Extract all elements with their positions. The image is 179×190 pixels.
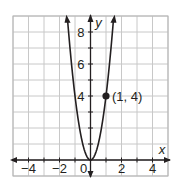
x-tick-label: 4 xyxy=(149,161,156,176)
point-marker xyxy=(102,92,109,99)
x-tick-label: 2 xyxy=(118,161,125,176)
y-axis-label: y xyxy=(94,15,103,30)
origin-label: 0 xyxy=(80,161,87,176)
y-axis-down-arrow-icon xyxy=(88,171,94,178)
point-label: (1, 4) xyxy=(112,89,142,104)
y-tick-label: 4 xyxy=(77,89,84,104)
y-tick-label: 6 xyxy=(77,57,84,72)
y-axis-up-arrow-icon xyxy=(88,14,94,22)
x-axis-label: x xyxy=(158,142,166,157)
y-tick-label: 8 xyxy=(77,25,84,40)
x-tick-label: −2 xyxy=(52,161,67,176)
x-tick-label: −4 xyxy=(21,161,36,176)
annotations: (1, 4) xyxy=(102,89,142,104)
coordinate-plane: −4−2240468xy (1, 4) xyxy=(0,0,179,190)
